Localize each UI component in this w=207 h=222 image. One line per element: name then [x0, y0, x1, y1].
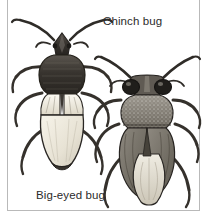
- big-eyed-bug-pronotum: [121, 95, 173, 128]
- chinch-bug-head: [53, 33, 72, 55]
- chinch-bug-wings: [41, 94, 83, 115]
- big-eyed-bug-illustration: [93, 52, 205, 210]
- big-eyed-bug-wings: [119, 128, 174, 205]
- chinch-bug-abdomen: [40, 115, 83, 170]
- chinch-bug-pronotum: [39, 55, 85, 94]
- cropped-top-text: [38, 0, 168, 2]
- insect-figure-panel: Chinch bug Big-eyed bug: [0, 0, 207, 222]
- big-eyed-bug-label: Big-eyed bug: [36, 189, 105, 201]
- right-eye: [155, 80, 172, 95]
- left-eye: [123, 80, 140, 95]
- chinch-bug-label: Chinch bug: [103, 15, 162, 27]
